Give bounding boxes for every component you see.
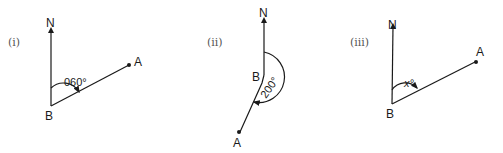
point-a-label: A xyxy=(233,136,241,150)
north-label: N xyxy=(259,6,268,20)
diagram-iii: (iii) N A B x° xyxy=(350,18,484,121)
north-line xyxy=(392,26,393,104)
north-label: N xyxy=(46,16,55,30)
angle-label: 060° xyxy=(64,76,87,88)
angle-label: x° xyxy=(403,77,415,89)
diagram-ii: (ii) N A B 200° xyxy=(207,6,284,150)
point-a-dot xyxy=(474,60,478,64)
point-a-dot xyxy=(237,130,241,134)
point-b-label: B xyxy=(386,107,394,121)
point-b-label: B xyxy=(252,70,260,84)
diagram-i: (i) N A B 060° xyxy=(8,16,142,123)
point-b-label: B xyxy=(45,109,53,123)
point-a-dot xyxy=(127,63,131,67)
bearings-figure: (i) N A B 060° (ii) N A B 200° (iii) N A… xyxy=(0,0,503,153)
north-label: N xyxy=(388,18,397,32)
angle-label: 200° xyxy=(258,75,281,101)
diagram-number-label: (i) xyxy=(8,36,20,49)
point-a-label: A xyxy=(134,55,142,69)
diagram-number-label: (iii) xyxy=(350,36,369,49)
point-a-label: A xyxy=(476,45,484,59)
diagram-number-label: (ii) xyxy=(207,36,223,49)
bearing-line-ba xyxy=(51,65,129,106)
